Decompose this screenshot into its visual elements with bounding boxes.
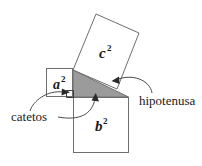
square-c-label-base: c <box>99 45 106 61</box>
square-c-label-exponent: 2 <box>107 43 112 53</box>
pythagorean-theorem-figure: c 2 a 2 b 2 catetos <box>0 0 202 166</box>
square-a-label-base: a <box>53 77 60 92</box>
catetos-label: catetos <box>11 109 47 124</box>
square-b-label-exponent: 2 <box>103 116 108 126</box>
square-a-label-exponent: 2 <box>61 74 66 84</box>
hipotenusa-leader-line <box>116 77 152 93</box>
hipotenusa-label: hipotenusa <box>139 93 196 108</box>
figure-canvas: c 2 a 2 b 2 catetos <box>0 0 202 166</box>
square-b-label-base: b <box>95 118 103 134</box>
square-b-group: b 2 <box>74 98 129 153</box>
